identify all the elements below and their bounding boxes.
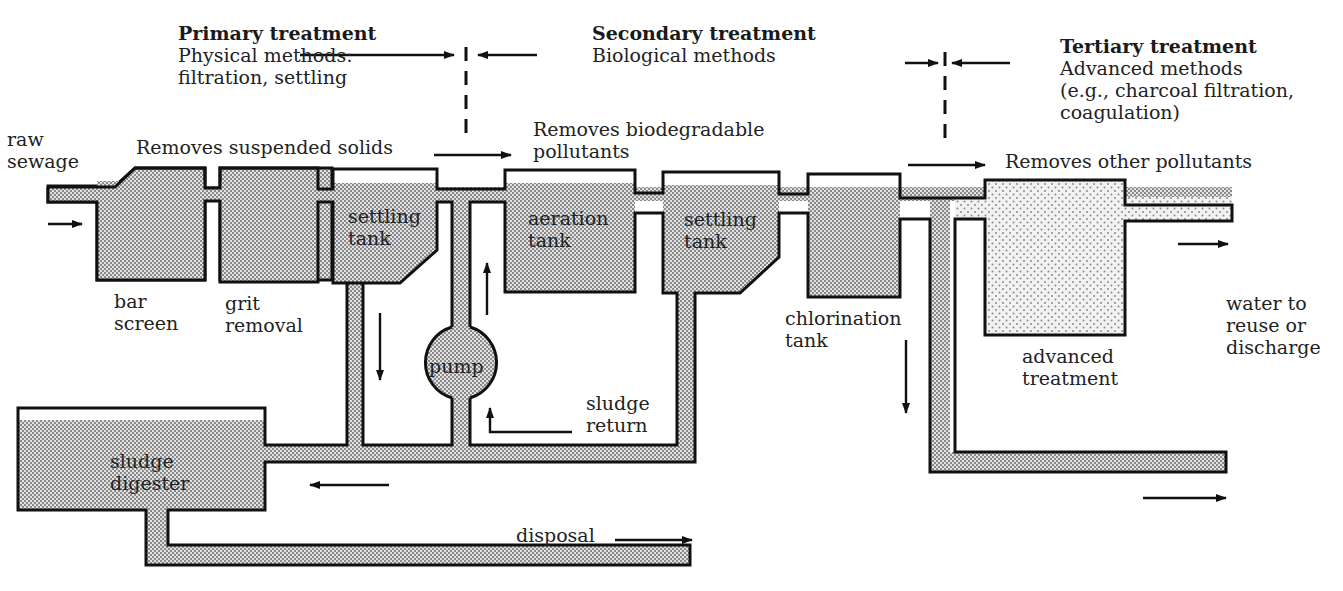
label-chlorination-tank: chlorinationtank — [785, 307, 902, 351]
label-advanced-treatment: advancedtreatment — [1022, 345, 1118, 389]
stage-secondary: Secondary treatment Biological methods — [592, 22, 816, 66]
stage-title: Tertiary treatment — [1060, 35, 1294, 57]
advanced-treatment — [985, 201, 1125, 335]
chlorination — [808, 201, 900, 297]
stage-title: Primary treatment — [178, 22, 376, 44]
label-primary-settling-tank: settlingtank — [348, 205, 421, 249]
removes-other-pollutants: Removes other pollutants — [1005, 150, 1252, 172]
stage-primary: Primary treatment Physical methods: filt… — [178, 22, 376, 88]
bar-screen — [97, 201, 205, 280]
grit-removal — [220, 201, 318, 282]
label-raw-sewage: rawsewage — [7, 128, 79, 172]
label-sludge-return: sludgereturn — [586, 392, 650, 436]
label-secondary-settling-tank: settlingtank — [684, 208, 757, 252]
label-water-outlet: water toreuse ordischarge — [1226, 292, 1321, 358]
label-pump: pump — [429, 355, 484, 377]
stage-title: Secondary treatment — [592, 22, 816, 44]
label-grit-removal: gritremoval — [225, 292, 303, 336]
label-disposal: disposal — [516, 524, 595, 546]
stage-tertiary: Tertiary treatment Advanced methods (e.g… — [1060, 35, 1294, 123]
label-aeration-tank: aerationtank — [528, 207, 608, 251]
label-bar-screen: barscreen — [114, 290, 178, 334]
removes-suspended-solids: Removes suspended solids — [136, 136, 393, 158]
label-sludge-digester: sludgedigester — [110, 450, 189, 494]
removes-biodegradable: Removes biodegradable pollutants — [533, 118, 764, 162]
